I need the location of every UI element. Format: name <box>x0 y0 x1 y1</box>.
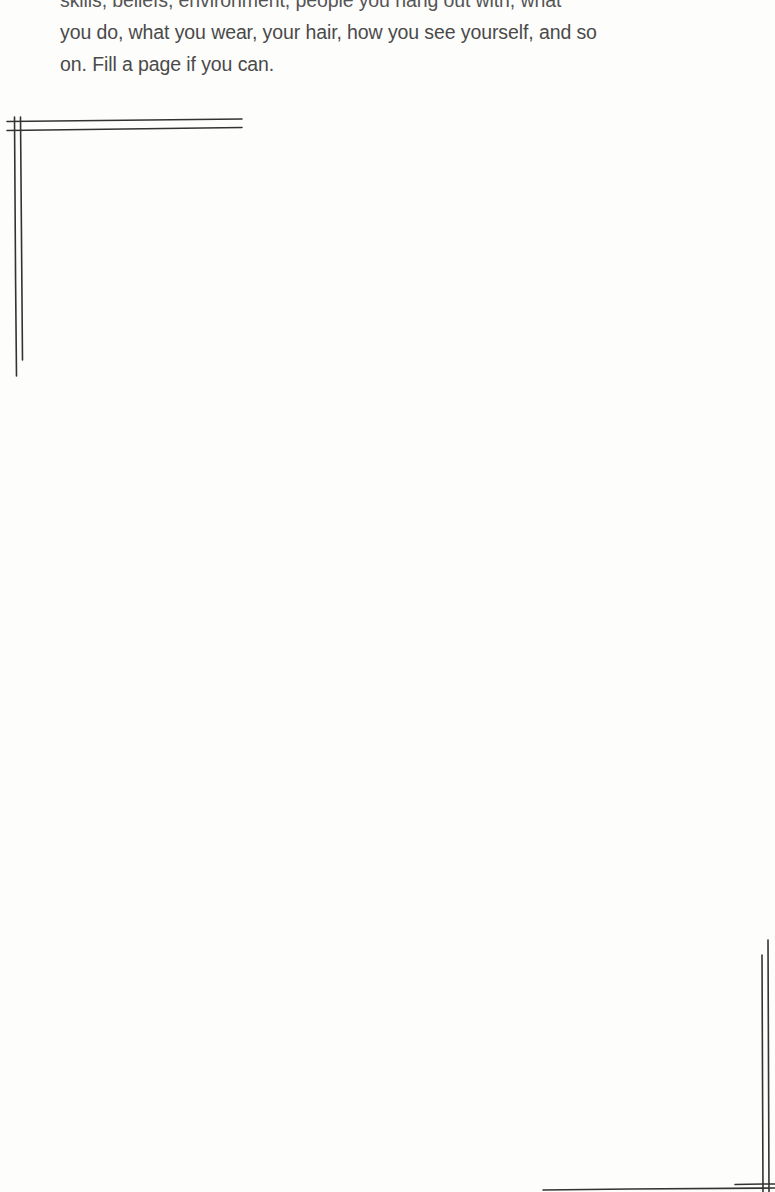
journal-page: skills, beliefs, environment, people you… <box>0 0 775 1192</box>
writing-area[interactable] <box>24 135 759 1183</box>
